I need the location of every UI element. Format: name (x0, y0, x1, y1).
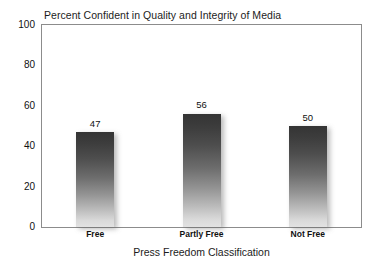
bar-group: 56 (183, 25, 221, 227)
x-tick-label: Partly Free (180, 230, 224, 239)
x-tick-label: Not Free (291, 230, 325, 239)
x-axis-title: Press Freedom Classification (41, 246, 362, 258)
y-tick-label: 20 (24, 182, 35, 192)
chart-title: Percent Confident in Quality and Integri… (44, 9, 281, 21)
y-tick-label: 0 (29, 222, 35, 232)
bar-value-label: 50 (289, 113, 327, 123)
y-axis: 020406080100 (0, 24, 38, 228)
bar-value-label: 47 (76, 119, 114, 129)
bar-group: 50 (289, 25, 327, 227)
x-axis: FreePartly FreeNot Free (42, 230, 361, 244)
y-tick-label: 100 (18, 20, 35, 30)
y-tick-label: 60 (24, 101, 35, 111)
plot-area: 475650 (42, 25, 361, 227)
x-tick-label: Free (86, 230, 104, 239)
bar[interactable] (289, 126, 327, 227)
bar[interactable] (183, 114, 221, 227)
y-tick-label: 40 (24, 141, 35, 151)
bar-chart: Percent Confident in Quality and Integri… (0, 0, 380, 261)
bar-group: 47 (76, 25, 114, 227)
y-tick-label: 80 (24, 60, 35, 70)
bar-value-label: 56 (183, 100, 221, 110)
bar[interactable] (76, 132, 114, 227)
